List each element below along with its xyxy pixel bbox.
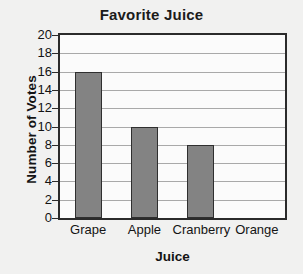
y-tick-label: 8 <box>26 138 52 151</box>
y-tick-mark <box>52 163 58 164</box>
bar-chart: Favorite Juice Number of Votes 201816141… <box>0 0 303 274</box>
y-tick-label: 14 <box>26 83 52 96</box>
y-tick-mark <box>52 200 58 201</box>
y-tick-mark <box>52 53 58 54</box>
y-tick-label: 18 <box>26 46 52 59</box>
x-axis-title: Juice <box>58 249 287 264</box>
bar-cranberry[interactable] <box>187 145 214 218</box>
x-tick-label-grape: Grape <box>60 223 116 236</box>
x-tick-label-apple: Apple <box>116 223 172 236</box>
bar-grape[interactable] <box>75 72 102 218</box>
x-tick-label-orange: Orange <box>229 223 285 236</box>
y-tick-label: 6 <box>26 156 52 169</box>
y-tick-mark <box>52 35 58 36</box>
y-tick-mark <box>52 90 58 91</box>
y-tick-mark <box>52 108 58 109</box>
y-tick-mark <box>52 127 58 128</box>
y-tick-label: 10 <box>26 120 52 133</box>
gridline <box>60 53 285 54</box>
y-tick-mark <box>52 181 58 182</box>
x-tick-label-cranberry: Cranberry <box>173 223 229 236</box>
y-tick-label: 0 <box>26 211 52 224</box>
y-tick-label: 4 <box>26 174 52 187</box>
chart-title: Favorite Juice <box>0 6 303 23</box>
y-tick-label: 12 <box>26 101 52 114</box>
y-tick-mark <box>52 145 58 146</box>
y-tick-label: 2 <box>26 193 52 206</box>
y-tick-label: 20 <box>26 28 52 41</box>
y-tick-mark <box>52 72 58 73</box>
y-tick-label: 16 <box>26 65 52 78</box>
bar-apple[interactable] <box>131 127 158 219</box>
y-tick-mark <box>52 218 58 219</box>
